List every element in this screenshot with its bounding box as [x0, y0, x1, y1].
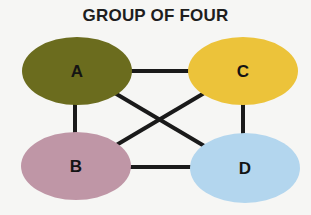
node-a: A	[22, 37, 132, 105]
node-c: C	[188, 37, 298, 105]
diagram-canvas: GROUP OF FOUR A C B D	[0, 0, 311, 215]
node-a-label: A	[71, 62, 83, 81]
node-b: B	[21, 132, 131, 200]
node-b-label: B	[70, 157, 82, 176]
node-d-label: D	[239, 159, 251, 178]
network-diagram: A C B D	[0, 0, 311, 215]
node-d: D	[190, 133, 300, 203]
node-c-label: C	[237, 62, 249, 81]
